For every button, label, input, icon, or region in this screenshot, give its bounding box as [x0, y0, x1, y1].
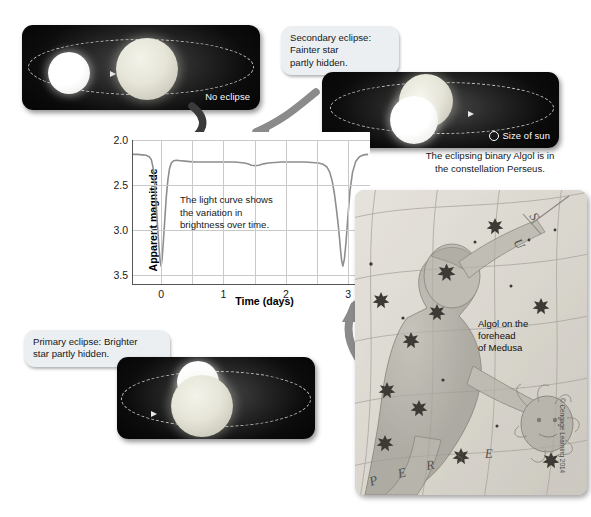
secondary-callout-line-3: partly hidden. [290, 57, 391, 69]
perseus-star-map: P E R S E U S Algol on the forehead of M… [355, 190, 587, 495]
orbit-direction-arrow [110, 71, 116, 77]
gridline-horizontal [133, 140, 370, 141]
brighter-star [390, 96, 438, 144]
y-axis-tick: 2.5 [113, 179, 128, 191]
primary-eclipse-panel [117, 357, 315, 439]
perseus-caption-line-1: The eclipsing binary Algol is in [395, 150, 585, 163]
x-axis-tick: 1 [221, 288, 227, 300]
gridline-vertical [161, 140, 162, 284]
fainter-star [171, 375, 233, 437]
copyright-notice: © Cengage Learning 2014 [559, 398, 566, 473]
y-axis-tick: 3.5 [113, 269, 128, 281]
light-curve-note-line-2: the variation in [180, 207, 273, 220]
perseus-caption: The eclipsing binary Algol is in the con… [395, 150, 585, 175]
algol-annotation-line-2: forehead [478, 330, 528, 342]
y-axis-tick: 2.0 [113, 134, 128, 146]
secondary-callout-line-2: Fainter star [290, 44, 391, 56]
star-map-engraving: P E R S E U S [355, 190, 587, 495]
gridline-vertical [348, 140, 349, 284]
light-curve-chart: Apparent magnitude 2.02.53.03.50123 Time… [105, 132, 370, 307]
light-curve-note: The light curve shows the variation in b… [180, 194, 273, 232]
x-axis-tick: 3 [345, 288, 351, 300]
sun-circle-icon [489, 131, 499, 141]
primary-callout-line-1: Primary eclipse: Brighter [33, 336, 162, 348]
no-eclipse-panel: No eclipse [22, 25, 260, 110]
svg-text:E: E [484, 446, 494, 461]
light-curve-note-line-1: The light curve shows [180, 194, 273, 207]
sun-size-reference: Size of sun [489, 130, 550, 141]
fainter-star [116, 38, 178, 100]
x-axis-tick: 0 [158, 288, 164, 300]
algol-annotation: Algol on the forehead of Medusa [478, 318, 528, 354]
algol-annotation-line-3: of Medusa [478, 342, 528, 354]
orbit-direction-arrow [151, 411, 157, 417]
gridline-vertical [286, 140, 287, 284]
light-curve-note-line-3: brightness over time. [180, 219, 273, 232]
orbit-direction-arrow [468, 111, 474, 117]
secondary-eclipse-callout: Secondary eclipse: Fainter star partly h… [281, 26, 399, 75]
gridline-vertical [317, 140, 318, 284]
gridline-horizontal [133, 185, 370, 186]
perseus-caption-line-2: the constellation Perseus. [395, 163, 585, 176]
algol-annotation-line-1: Algol on the [478, 318, 528, 330]
sun-size-label: Size of sun [503, 130, 550, 141]
brighter-star [48, 52, 90, 94]
y-axis-tick: 3.0 [113, 224, 128, 236]
secondary-callout-line-1: Secondary eclipse: [290, 32, 391, 44]
gridline-horizontal [133, 275, 370, 276]
